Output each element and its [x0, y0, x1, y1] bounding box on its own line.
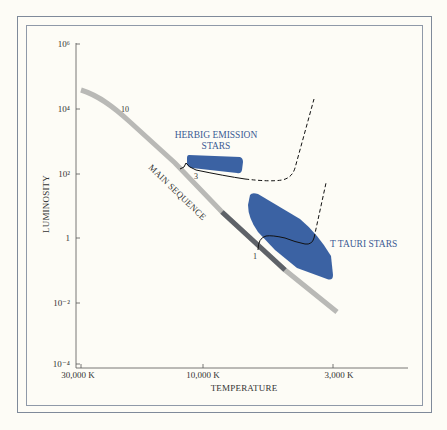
y-tick-1e2: 10²: [58, 169, 70, 179]
hr-diagram: 10⁶ 10⁴ 10² 1 10⁻² 10⁻⁴ 30,000 K 10,000 …: [0, 0, 447, 430]
x-axis: [76, 364, 408, 368]
herbig-label-line1: HERBIG EMISSION: [175, 130, 258, 140]
y-axis-title: LUMINOSITY: [41, 175, 51, 233]
y-tick-1e-2: 10⁻²: [53, 298, 70, 308]
y-axis: [76, 43, 80, 368]
main-sequence-band: [81, 90, 337, 312]
track-1-solar-dashed: [314, 183, 326, 238]
herbig-label-line2: STARS: [202, 141, 231, 151]
y-tick-1e-4: 10⁻⁴: [53, 359, 70, 369]
y-tick-1e4: 10⁴: [58, 104, 70, 114]
main-sequence-label: MAIN SEQUENCE: [147, 162, 209, 222]
x-tick-3000: 3,000 K: [325, 370, 355, 380]
mass-label-1: 1: [253, 252, 257, 261]
t-tauri-region: [248, 193, 333, 279]
herbig-emission-region: [187, 155, 243, 173]
y-tick-1: 1: [66, 233, 71, 243]
mass-label-3: 3: [194, 172, 198, 181]
mass-label-10: 10: [121, 105, 129, 114]
x-axis-title: TEMPERATURE: [211, 383, 278, 393]
y-tick-1e6: 10⁶: [58, 39, 70, 49]
x-tick-30000: 30,000 K: [61, 370, 95, 380]
t-tauri-label: T TAURI STARS: [330, 239, 397, 249]
x-tick-10000: 10,000 K: [186, 370, 220, 380]
